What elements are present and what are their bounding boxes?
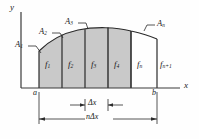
ordinate-label-f3-sub: 3 bbox=[94, 63, 97, 69]
x-axis-label: x bbox=[184, 81, 188, 90]
ordinate-label-f1-sub: 1 bbox=[48, 63, 51, 69]
area-label-an-sub: n bbox=[162, 22, 165, 28]
area-label-an: An bbox=[157, 19, 165, 28]
area-label-a2: A2 bbox=[39, 27, 47, 36]
ordinate-label-fn-plus-1-sub: n+1 bbox=[163, 63, 172, 69]
arrowhead-delta-x-left bbox=[80, 103, 85, 107]
area-label-a3: A3 bbox=[65, 17, 73, 26]
ordinate-label-f3: f3 bbox=[91, 60, 96, 70]
ordinate-label-fn: fn bbox=[137, 60, 142, 70]
ordinate-label-f1: f1 bbox=[45, 60, 50, 70]
arrowhead-total-right bbox=[151, 117, 157, 121]
y-axis-label: y bbox=[10, 3, 14, 12]
dimension-label-total-width: nΔx bbox=[86, 113, 98, 121]
endpoint-label-b: b bbox=[152, 89, 156, 97]
dimension-label-delta-x: Δx bbox=[88, 99, 96, 107]
ordinate-label-fn-sub: n bbox=[140, 63, 143, 69]
area-label-a1-sub: 1 bbox=[20, 43, 23, 49]
figure-integration-strips: y x a b A1 A2 A3 An f1 f2 f3 f4 fn fn+1 … bbox=[0, 0, 199, 139]
ordinate-label-f4-sub: 4 bbox=[117, 63, 120, 69]
area-label-a1: A1 bbox=[15, 40, 23, 49]
area-label-a3-sub: 3 bbox=[70, 20, 73, 26]
arrowhead-total-left bbox=[39, 117, 45, 121]
ordinate-label-f2: f2 bbox=[68, 60, 73, 70]
ordinate-label-f2-sub: 2 bbox=[71, 63, 74, 69]
ordinate-label-fn-plus-1: fn+1 bbox=[160, 60, 172, 70]
area-label-a2-sub: 2 bbox=[44, 30, 47, 36]
endpoint-label-a: a bbox=[33, 89, 37, 97]
arrowhead-delta-x-right bbox=[108, 103, 113, 107]
leader-line-an bbox=[144, 25, 155, 31]
ordinate-label-f4: f4 bbox=[114, 60, 119, 70]
